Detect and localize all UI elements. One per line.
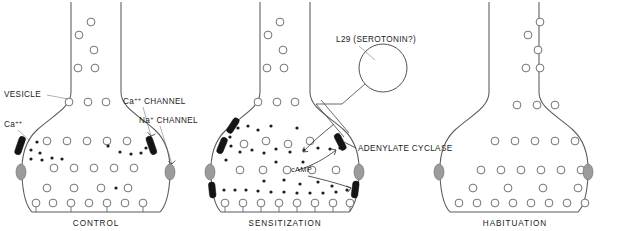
calcium-channel-control-right [145,135,157,155]
caption-control: CONTROL [73,219,119,228]
sodium-channel-habituation-right [583,164,593,180]
calcium-channel-sensitization-right-upper [333,132,347,151]
caption-sensitization: SENSITIZATION [249,219,322,228]
release-stem-group-control [36,207,143,212]
calcium-channel-label: Ca++ CHANNEL [123,96,186,106]
calcium-dot-group-control [29,140,147,189]
terminal-outline-control [22,2,170,212]
vesicle-group-control [32,18,147,207]
l29-terminal [316,104,344,137]
release-stem-group-sensitization [225,207,350,212]
panel-habituation [434,2,593,212]
panel-control [14,2,175,212]
vesicle-group-sensitization [221,18,354,207]
camp-arrow-right-lower [308,176,351,188]
sodium-channel-control-right [165,164,175,180]
sodium-channel-habituation-left [434,164,444,180]
sodium-channel-sensitization-left [205,164,215,180]
calcium-channel-sensitization-left-mid [216,136,228,154]
l29-axon [316,84,365,104]
calcium-channel-sensitization-left-lower [208,182,216,199]
vesicle-group-habituation [455,18,589,207]
caption-habituation: HABITUATION [483,219,547,228]
camp-label: cAMP [291,165,312,174]
synapse-diagram: VESICLE Ca++ Ca++ CHANNEL Na+ CHANNEL [0,0,619,231]
adenylate-cyclase-label: ADENYLATE CYCLASE [358,144,453,153]
l29-label: L29 (SEROTONIN?) [336,35,416,44]
calcium-label: Ca++ [4,119,22,129]
calcium-channel-sensitization-left-upper [226,117,241,135]
l29-cell-body [359,44,407,92]
calcium-channel-sensitization-right-lower [351,181,360,199]
l29-terminal-edge [321,100,349,133]
sodium-channel-leader [160,126,172,164]
diagram-canvas: VESICLE Ca++ Ca++ CHANNEL Na+ CHANNEL [0,0,619,231]
panel-sensitization [205,2,407,212]
vesicle-label: VESICLE [4,90,41,99]
sodium-channel-control-left [16,164,26,180]
vesicle-leader [47,95,68,99]
sodium-channel-label: Na+ CHANNEL [139,115,198,125]
calcium-dot-group-sensitization [222,124,348,194]
sodium-channel-sensitization-right [354,164,364,180]
